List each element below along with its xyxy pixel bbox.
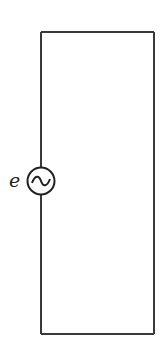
wire-loop bbox=[41, 32, 154, 334]
ac-source bbox=[28, 168, 55, 195]
circuit-diagram: e bbox=[0, 0, 161, 350]
source-label: e bbox=[9, 169, 20, 191]
